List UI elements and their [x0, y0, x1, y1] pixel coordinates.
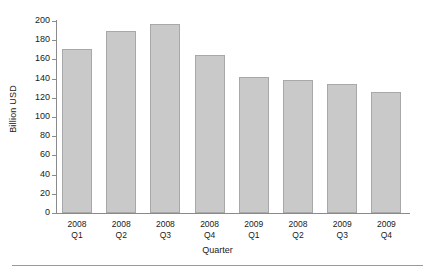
y-tick-mark [52, 213, 56, 214]
x-tick-quarter: Q4 [187, 230, 233, 241]
y-tick-label: 140 [35, 73, 50, 84]
bar [371, 92, 401, 213]
x-tick-label: 2008Q2 [275, 219, 321, 241]
x-tick-label: 2008Q2 [98, 219, 144, 241]
x-tick-year: 2008 [142, 219, 188, 230]
x-tick-year: 2008 [275, 219, 321, 230]
y-tick-mark [52, 40, 56, 41]
x-tick-label: 2009Q4 [363, 219, 409, 241]
y-tick-mark [52, 117, 56, 118]
bar [195, 55, 225, 213]
bar [106, 31, 136, 213]
y-tick-label: 160 [35, 53, 50, 64]
y-tick-mark [52, 175, 56, 176]
plot-area: 020406080100120140160180200 2008Q12008Q2… [56, 21, 410, 213]
x-tick-quarter: Q2 [98, 230, 144, 241]
x-tick-year: 2008 [187, 219, 233, 230]
x-tick-year: 2008 [98, 219, 144, 230]
bar [239, 77, 269, 213]
x-tick-label: 2008Q3 [142, 219, 188, 241]
x-tick-quarter: Q2 [275, 230, 321, 241]
y-tick-mark [52, 59, 56, 60]
bar [62, 49, 92, 213]
x-tick-quarter: Q4 [363, 230, 409, 241]
y-axis-line [56, 20, 57, 214]
y-tick-label: 0 [45, 207, 50, 218]
y-tick-mark [52, 155, 56, 156]
x-tick-label: 2009Q1 [231, 219, 277, 241]
y-tick-label: 80 [40, 130, 50, 141]
y-tick-label: 100 [35, 111, 50, 122]
y-tick-label: 40 [40, 169, 50, 180]
y-tick-mark [52, 98, 56, 99]
y-tick-label: 20 [40, 188, 50, 199]
bar [327, 84, 357, 213]
y-tick-mark [52, 136, 56, 137]
y-tick-label: 200 [35, 15, 50, 26]
x-tick-year: 2008 [54, 219, 100, 230]
x-tick-quarter: Q1 [231, 230, 277, 241]
y-tick-label: 60 [40, 149, 50, 160]
y-tick-mark [52, 79, 56, 80]
x-axis-line [56, 213, 410, 214]
y-tick-label: 180 [35, 34, 50, 45]
y-axis-title: Billion USD [8, 69, 18, 149]
x-tick-quarter: Q3 [319, 230, 365, 241]
x-tick-quarter: Q1 [54, 230, 100, 241]
y-tick-mark [52, 21, 56, 22]
x-tick-label: 2008Q4 [187, 219, 233, 241]
bar [150, 24, 180, 213]
x-tick-year: 2009 [231, 219, 277, 230]
x-tick-label: 2008Q1 [54, 219, 100, 241]
y-tick-label: 120 [35, 92, 50, 103]
bar [283, 80, 313, 213]
x-tick-quarter: Q3 [142, 230, 188, 241]
x-tick-year: 2009 [363, 219, 409, 230]
footer-divider [12, 265, 423, 266]
x-axis-title: Quarter [0, 245, 435, 255]
bar-chart-figure: Billion USD 020406080100120140160180200 … [0, 0, 435, 275]
x-tick-year: 2009 [319, 219, 365, 230]
y-tick-mark [52, 194, 56, 195]
x-tick-label: 2009Q3 [319, 219, 365, 241]
